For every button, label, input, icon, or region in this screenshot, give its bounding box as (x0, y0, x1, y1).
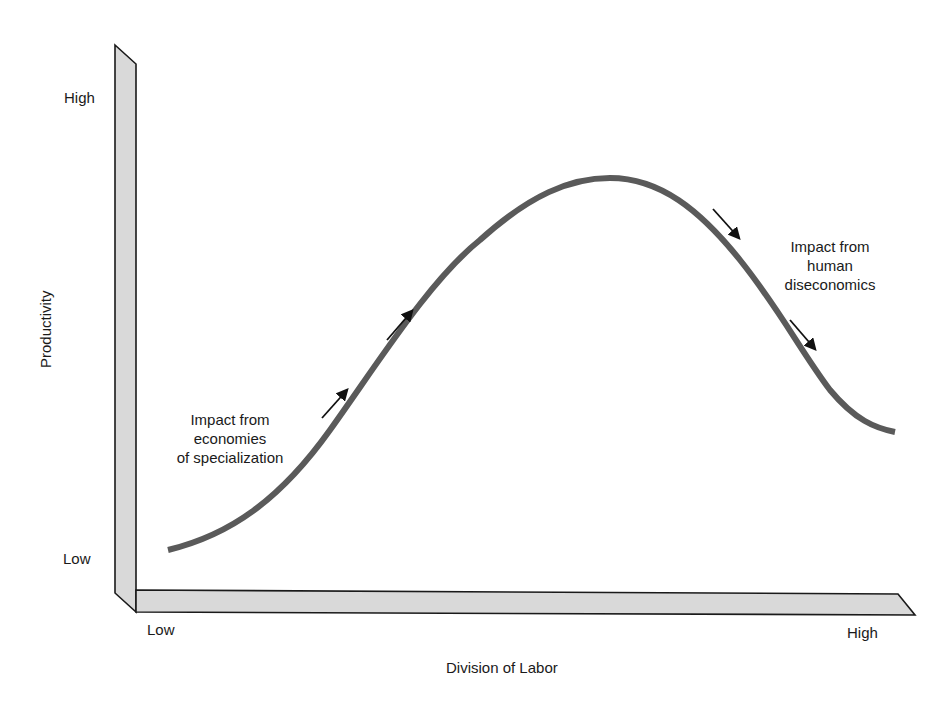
annotation-line: of specialization (155, 448, 305, 467)
annotation-line: diseconomics (770, 275, 890, 294)
y-high-label: High (64, 88, 95, 107)
annotation-economies: Impact from economies of specialization (155, 410, 305, 467)
annotation-diseconomics: Impact from human diseconomics (770, 237, 890, 294)
x-axis-title: Division of Labor (446, 658, 558, 677)
y-axis-title: Productivity (37, 290, 54, 368)
annotation-line: human (770, 256, 890, 275)
productivity-curve (168, 178, 895, 550)
x-axis-slab (136, 590, 915, 615)
x-low-label: Low (147, 620, 175, 639)
y-axis-slab (115, 45, 136, 612)
annotation-line: Impact from (770, 237, 890, 256)
productivity-diagram (0, 0, 941, 708)
annotation-line: Impact from (155, 410, 305, 429)
y-low-label: Low (63, 549, 91, 568)
x-high-label: High (847, 623, 878, 642)
annotation-line: economies (155, 429, 305, 448)
